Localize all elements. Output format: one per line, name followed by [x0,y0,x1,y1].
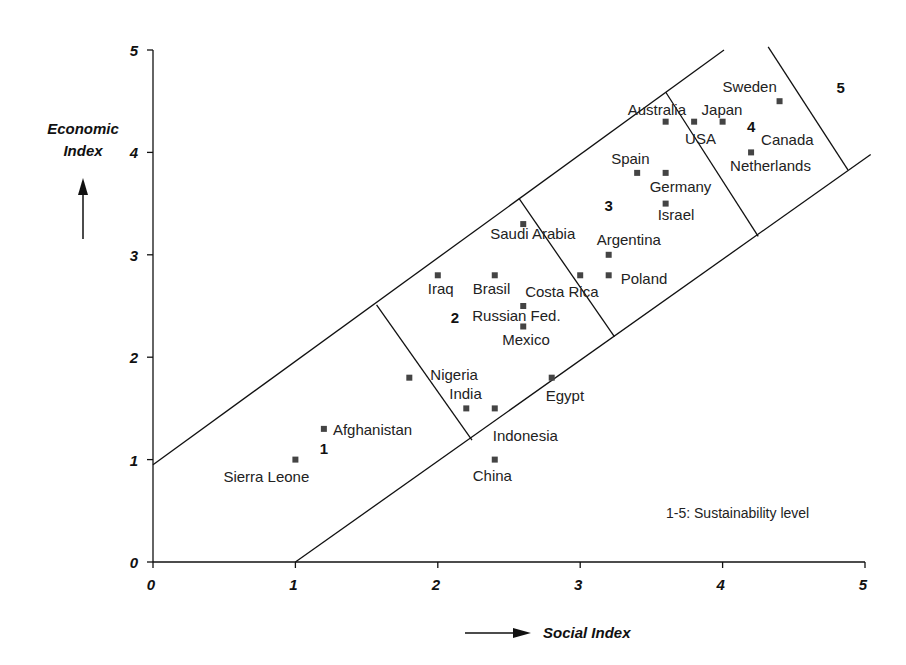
y-tick-label: 3 [130,247,139,264]
data-point-marker [606,272,612,278]
point-label: Nigeria [430,366,478,383]
sustainability-level-label: 4 [747,118,756,135]
point-label: Brasil [473,280,511,297]
point-label: India [449,385,482,402]
point-label: Japan [702,101,743,118]
data-point-marker [321,426,327,432]
point-label: Israel [658,206,695,223]
data-point-marker [577,272,583,278]
legend-text: 1-5: Sustainability level [666,505,809,521]
x-tick-label: 1 [289,576,297,593]
sustainability-level-label: 5 [837,79,845,96]
point-label: USA [685,130,716,147]
data-point-marker [663,170,669,176]
sustainability-level-label: 1 [320,440,328,457]
point-label: Argentina [597,231,662,248]
band-divider-4 [768,47,848,170]
band-lower-boundary [295,154,870,562]
data-point-marker [720,119,726,125]
sustainability-bands [153,47,871,562]
point-label: Saudi Arabia [490,225,576,242]
y-axis-title-line1: Economic [47,120,119,137]
data-point-marker [492,272,498,278]
sustainability-scatter-chart: 012345 012345 Sierra LeoneAfghanistanNig… [0,0,906,665]
point-label: Russian Fed. [472,307,560,324]
point-label: China [473,467,513,484]
x-tick-label: 5 [859,576,868,593]
y-tick-label: 1 [130,452,138,469]
data-point-marker [406,375,412,381]
data-point-marker [520,323,526,329]
x-tick-label: 0 [147,576,156,593]
arrow-right-icon [465,628,531,638]
y-axis-title-line2: Index [63,142,103,159]
point-label: Indonesia [493,427,559,444]
point-label: Iraq [428,280,454,297]
point-label: Egypt [546,387,585,404]
point-label: Sierra Leone [223,468,309,485]
data-point-marker [777,98,783,104]
x-tick-label: 3 [574,576,583,593]
data-point-marker [691,119,697,125]
y-ticks: 012345 [129,42,153,571]
data-point-marker [492,405,498,411]
data-point-marker [606,252,612,258]
data-point-marker [748,149,754,155]
point-label: Poland [621,270,668,287]
data-point-marker [663,119,669,125]
x-tick-label: 2 [431,576,441,593]
point-label: Germany [650,178,712,195]
plot-area: 012345 012345 Sierra LeoneAfghanistanNig… [0,0,906,665]
data-point-marker [549,375,555,381]
y-tick-label: 2 [129,349,139,366]
data-point-marker [634,170,640,176]
point-label: Mexico [502,331,550,348]
y-tick-label: 0 [130,554,139,571]
sustainability-level-label: 3 [605,197,613,214]
point-label: Sweden [723,78,777,95]
y-tick-label: 4 [129,144,139,161]
y-tick-label: 5 [130,42,139,59]
point-label: Australia [628,101,687,118]
sustainability-level-label: 2 [451,309,459,326]
point-label: Costa Rica [525,283,599,300]
data-point-marker [435,272,441,278]
point-label: Netherlands [730,157,811,174]
point-label: Canada [761,131,814,148]
data-points: Sierra LeoneAfghanistanNigeriaIndiaIndon… [223,78,814,484]
x-ticks: 012345 [147,562,868,593]
x-tick-label: 4 [715,576,725,593]
data-point-marker [492,457,498,463]
point-label: Spain [611,150,649,167]
arrow-up-icon [78,178,88,239]
data-point-marker [463,405,469,411]
x-axis-title: Social Index [543,624,631,641]
point-label: Afghanistan [333,421,412,438]
data-point-marker [292,457,298,463]
